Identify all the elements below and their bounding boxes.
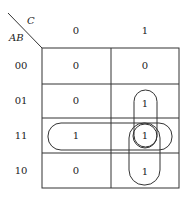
row-header-00: 00 (6, 60, 36, 72)
cell-10-1: 1 (135, 166, 155, 178)
cell-01-0: 0 (66, 95, 86, 107)
cell-10-0: 0 (66, 165, 86, 177)
row-variable-label: AB (9, 32, 24, 44)
cell-01-1: 1 (135, 98, 155, 110)
column-variable-label: C (27, 15, 35, 27)
cell-00-1: 0 (135, 60, 155, 72)
cell-11-1: 1 (135, 130, 155, 142)
row-header-10: 10 (6, 165, 36, 177)
column-header-0: 0 (66, 25, 86, 37)
cell-11-0: 1 (66, 130, 86, 142)
row-header-01: 01 (6, 95, 36, 107)
row-header-11: 11 (6, 130, 36, 142)
cell-00-0: 0 (66, 60, 86, 72)
column-header-1: 1 (135, 25, 155, 37)
